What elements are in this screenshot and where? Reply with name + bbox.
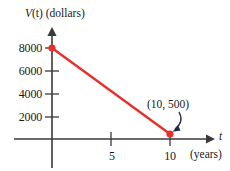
- y-axis-title: V(t) (dollars): [25, 8, 85, 20]
- y-axis-title-argument: (t): [32, 7, 43, 19]
- annotation-point-label: (10, 500): [147, 99, 189, 111]
- chart-figure: V(t) (dollars) 8000 6000 4000 2000 5 10 …: [0, 0, 230, 171]
- data-point-start: [48, 44, 55, 51]
- x-axis-arrowhead: [206, 134, 215, 143]
- x-tick-label-5: 5: [105, 150, 119, 162]
- y-tick-label-8000: 8000: [0, 42, 42, 54]
- data-line-depreciation: [52, 48, 170, 134]
- x-tick-label-10: 10: [161, 150, 179, 162]
- y-tick-label-2000: 2000: [0, 111, 42, 123]
- chart-plot-area: [0, 0, 230, 171]
- y-tick-label-4000: 4000: [0, 88, 42, 100]
- y-axis-title-variable: V: [25, 7, 32, 19]
- y-axis-title-units: (dollars): [46, 7, 85, 19]
- y-tick-label-6000: 6000: [0, 65, 42, 77]
- y-axis-arrowhead: [47, 27, 56, 36]
- data-point-end: [166, 130, 173, 137]
- x-axis-title-units: (years): [190, 149, 222, 161]
- x-axis-title: t: [219, 131, 222, 143]
- annotation-arrowhead: [173, 125, 181, 132]
